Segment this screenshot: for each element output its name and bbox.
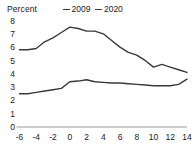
y-axis-tick-labels: 876543210	[10, 16, 15, 133]
x-tick-label: -6	[16, 132, 24, 142]
x-tick-label: 14	[182, 132, 192, 142]
x-tick-label: 6	[118, 132, 123, 142]
y-tick-label: 0	[10, 122, 15, 132]
y-tick-label: 5	[10, 56, 15, 66]
x-tick-label: 8	[134, 132, 139, 142]
x-tick-label: 4	[101, 132, 106, 142]
x-tick-label: 12	[166, 132, 176, 142]
series-line-2020	[20, 79, 188, 94]
data-series-group	[20, 27, 188, 94]
y-tick-label: 6	[10, 42, 15, 52]
plot-area: 876543210 -6-4-202468101214	[0, 0, 193, 146]
y-tick-label: 4	[10, 69, 15, 79]
x-tick-label: 2	[84, 132, 89, 142]
x-tick-label: -4	[32, 132, 40, 142]
x-tick-label: 0	[67, 132, 72, 142]
y-tick-label: 1	[10, 109, 15, 119]
y-tick-label: 2	[10, 95, 15, 105]
x-tick-label: 10	[149, 132, 159, 142]
series-line-2009	[20, 27, 188, 72]
line-chart-figure: Percent 2009 2020 876543210 -6-4-2024681…	[0, 0, 193, 146]
y-tick-label: 7	[10, 29, 15, 39]
x-axis-tick-labels: -6-4-202468101214	[16, 132, 192, 142]
x-tick-label: -2	[49, 132, 57, 142]
y-tick-label: 8	[10, 16, 15, 26]
y-tick-label: 3	[10, 82, 15, 92]
